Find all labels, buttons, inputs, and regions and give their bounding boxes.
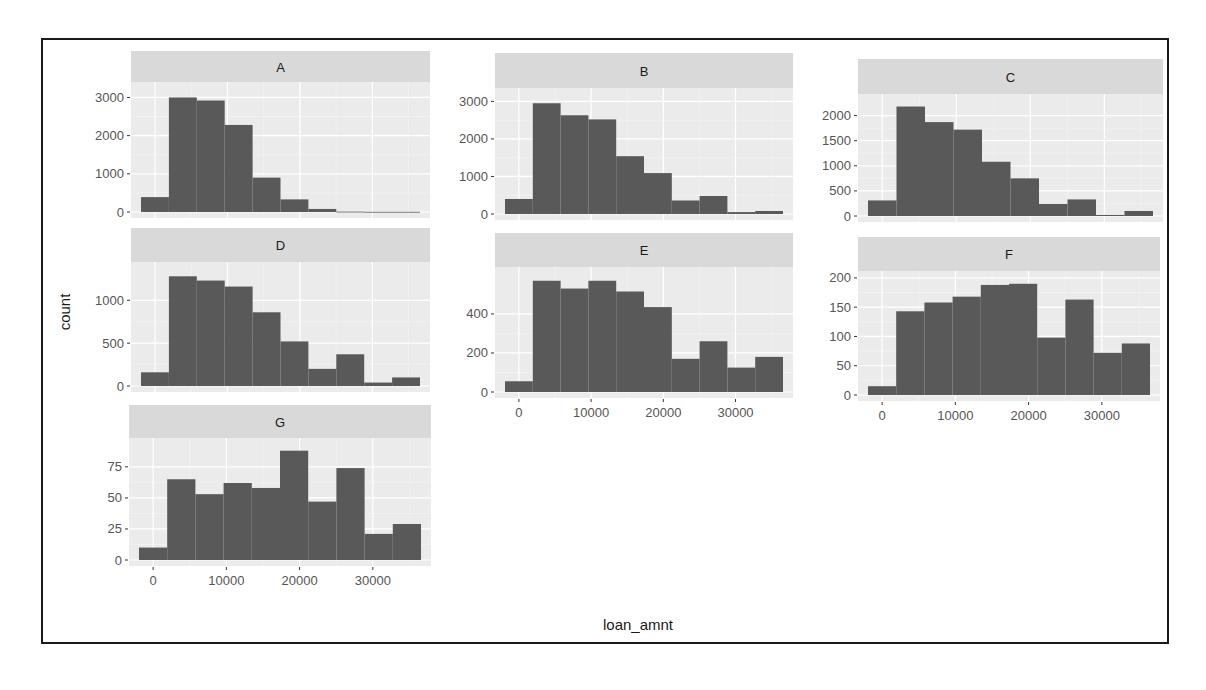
histogram-bar [561,289,589,392]
histogram-bar [281,341,309,386]
y-tick-label: 1000 [95,293,124,308]
facet-strip-label: E [640,243,649,258]
y-tick-label: 1000 [459,169,488,184]
y-tick-label: 1000 [822,158,851,173]
y-tick-label: 25 [108,521,122,536]
facet-panel-e: E02004000100002000030000 [466,233,793,420]
histogram-bar [727,212,755,214]
histogram-bar [1068,199,1097,216]
histogram-bar [252,488,280,560]
histogram-bar [505,381,533,392]
facet-strip-label: G [275,415,285,430]
histogram-bar [1011,178,1040,216]
y-tick-label: 0 [117,379,124,394]
histogram-bar [1037,338,1065,395]
histogram-bar [336,212,364,213]
histogram-bar [308,209,336,212]
y-tick-label: 0 [117,205,124,220]
facet-panels: A0100020003000B0100020003000C05001000150… [95,51,1163,588]
facet-strip-label: C [1006,70,1015,85]
y-tick-label: 500 [829,183,851,198]
x-tick-label: 30000 [1084,408,1120,423]
x-tick-label: 0 [515,405,522,420]
histogram-bar [616,156,644,214]
histogram-bar [700,341,728,392]
histogram-bar [195,494,223,560]
x-tick-label: 30000 [717,405,753,420]
histogram-bar [954,130,983,216]
facet-strip-label: B [640,64,649,79]
y-tick-label: 400 [466,306,488,321]
histogram-bar [924,303,952,395]
histogram-bar [897,107,926,216]
y-axis-title: count [56,293,73,331]
histogram-bar [868,386,896,395]
histogram-bar [141,197,169,212]
histogram-bar [588,281,616,392]
x-tick-label: 30000 [355,573,391,588]
y-tick-label: 2000 [822,108,851,123]
x-tick-label: 10000 [208,573,244,588]
facet-strip-label: F [1005,247,1013,262]
y-tick-label: 3000 [459,94,488,109]
y-tick-label: 200 [466,345,488,360]
histogram-bar [1122,343,1150,395]
facet-panel-f: F0501001502000100002000030000 [829,237,1160,423]
histogram-bar [1125,211,1154,216]
y-tick-label: 2000 [95,128,124,143]
histogram-bar [982,162,1011,216]
y-tick-label: 500 [102,336,124,351]
y-tick-label: 3000 [95,90,124,105]
facet-panel-d: D05001000 [95,228,430,394]
y-tick-label: 50 [108,490,122,505]
histogram-bar [1009,284,1037,395]
histogram-bar [169,97,197,212]
y-tick-label: 100 [829,329,851,344]
histogram-bar [224,483,252,560]
x-tick-label: 10000 [937,408,973,423]
histogram-bar [308,502,336,560]
histogram-bar [280,451,308,560]
histogram-bar [755,211,783,214]
facet-strip-label: A [276,60,285,75]
histogram-bar [281,199,309,212]
y-tick-label: 1500 [822,133,851,148]
y-tick-label: 0 [481,385,488,400]
histogram-bar [336,468,364,560]
x-tick-label: 10000 [573,405,609,420]
histogram-bar [197,101,225,212]
histogram-bar [392,212,420,213]
histogram-bar [981,285,1009,395]
y-tick-label: 150 [829,300,851,315]
histogram-bar [896,311,924,395]
histogram-bar [393,524,421,560]
histogram-bar [644,307,672,392]
histogram-bar [700,196,728,214]
x-tick-label: 20000 [645,405,681,420]
x-tick-label: 20000 [282,573,318,588]
histogram-bar [364,383,392,386]
histogram-bar [253,312,281,386]
histogram-bar [197,281,225,386]
histogram-bar [1094,353,1122,395]
x-tick-label: 20000 [1011,408,1047,423]
histogram-bar [727,368,755,392]
histogram-bar [225,125,253,212]
histogram-bar [169,276,197,386]
histogram-bar [644,173,672,214]
histogram-bar [336,354,364,386]
y-tick-label: 0 [844,388,851,403]
y-tick-label: 75 [108,459,122,474]
histogram-bar [672,200,700,214]
histogram-bar [225,287,253,386]
y-tick-label: 0 [481,207,488,222]
histogram-bar [139,548,167,560]
histogram-bar [561,115,589,214]
facet-panel-b: B0100020003000 [459,53,793,222]
histogram-bar [365,534,393,560]
histogram-bar [868,200,897,216]
y-tick-label: 0 [844,209,851,224]
histogram-bar [925,122,954,216]
histogram-bar [672,359,700,392]
y-tick-label: 1000 [95,166,124,181]
